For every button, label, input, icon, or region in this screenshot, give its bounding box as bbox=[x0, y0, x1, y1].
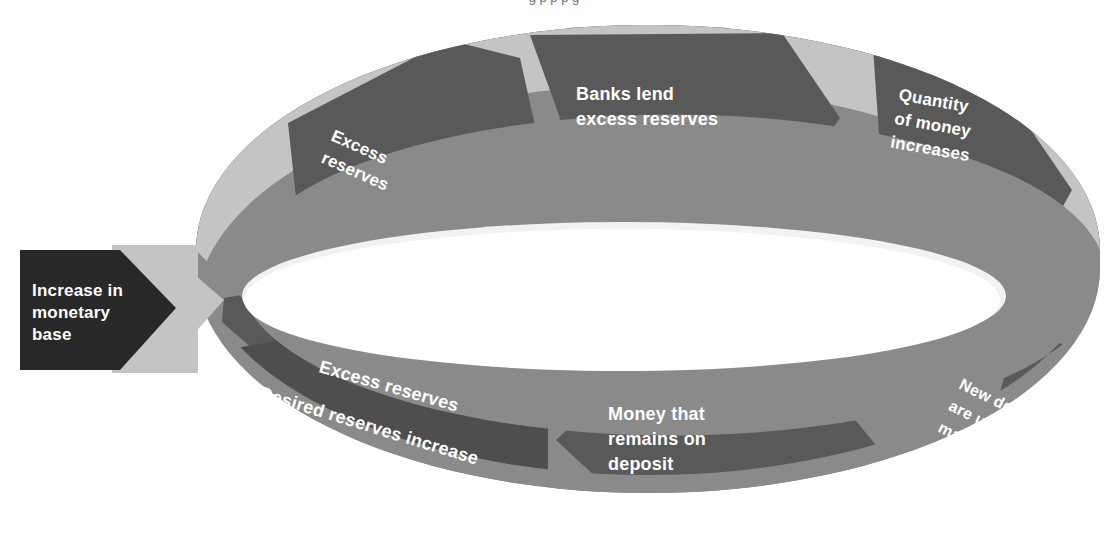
currency-drain-text: Currency drain bbox=[620, 515, 751, 535]
money-creation-cycle-diagram: Increase in monetary base Excess reserve… bbox=[0, 0, 1108, 559]
money-line3: deposit bbox=[608, 454, 673, 474]
money-line1: Money that bbox=[608, 404, 705, 424]
label-quantity-of-money: Quantity of money increases bbox=[889, 85, 980, 165]
cylinder-inner-hole bbox=[242, 222, 1006, 371]
banks-line1: Banks lend bbox=[576, 84, 674, 104]
label-currency-drain: Currency drain bbox=[620, 515, 751, 535]
money-line2: remains on bbox=[608, 429, 706, 449]
input-arrow-label-line1: Increase in bbox=[32, 281, 123, 300]
input-arrow-label-line2: monetary bbox=[32, 303, 110, 322]
banks-line2: excess reserves bbox=[576, 109, 718, 129]
input-arrow-label-line3: base bbox=[32, 325, 72, 344]
figure-canvas: g p p p g bbox=[0, 0, 1108, 559]
input-arrow-group[interactable]: Increase in monetary base bbox=[20, 245, 224, 373]
inner-ellipse bbox=[244, 229, 1000, 371]
